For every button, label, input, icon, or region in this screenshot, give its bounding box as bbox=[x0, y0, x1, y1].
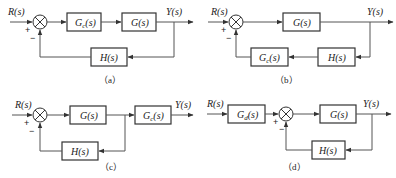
input-label: R(s) bbox=[206, 98, 224, 110]
output-label: Y(s) bbox=[367, 6, 384, 18]
input-label: R(s) bbox=[14, 99, 32, 111]
caption: （c） bbox=[100, 162, 122, 172]
block-h: H(s) bbox=[318, 48, 355, 66]
minus-sign: − bbox=[30, 33, 35, 43]
minus-sign: − bbox=[279, 124, 284, 134]
output-label: Y(s) bbox=[363, 98, 380, 110]
block-g: G(s) bbox=[320, 105, 356, 123]
svg-text:G(s): G(s) bbox=[330, 109, 348, 121]
block-h: H(s) bbox=[62, 142, 98, 160]
diagram-a: R(s) + − Gc(s) G(s) Y(s) H(s) （a） bbox=[7, 6, 193, 85]
minus-sign: − bbox=[29, 126, 34, 136]
block-g: G(s) bbox=[283, 13, 320, 31]
caption: （d） bbox=[283, 162, 306, 172]
plus-sign: + bbox=[273, 117, 278, 127]
summing-junction bbox=[33, 15, 47, 29]
output-label: Y(s) bbox=[166, 6, 183, 18]
input-label: R(s) bbox=[210, 6, 228, 18]
block-h: H(s) bbox=[312, 141, 345, 159]
svg-text:H(s): H(s) bbox=[70, 146, 89, 158]
svg-text:H(s): H(s) bbox=[99, 52, 118, 64]
block-h: H(s) bbox=[91, 48, 127, 66]
summing-junction bbox=[33, 108, 47, 122]
diagram-d: R(s) Gd(s) + − G(s) Y(s) H(s) （d） bbox=[206, 98, 391, 172]
minus-sign: − bbox=[226, 33, 231, 43]
block-g: G(s) bbox=[70, 106, 106, 124]
block-gd: Gd(s) bbox=[228, 105, 265, 123]
block-gc: Gc(s) bbox=[251, 48, 288, 66]
block-g: G(s) bbox=[122, 13, 156, 31]
svg-text:G(s): G(s) bbox=[80, 110, 98, 122]
block-gc: Gc(s) bbox=[135, 106, 171, 124]
caption: （b） bbox=[275, 75, 298, 85]
input-label: R(s) bbox=[7, 6, 25, 18]
diagram-c: R(s) + − G(s) Gc(s) Y(s) H(s) （c） bbox=[12, 99, 193, 172]
summing-junction bbox=[279, 107, 293, 121]
caption: （a） bbox=[99, 75, 121, 85]
svg-text:G(s): G(s) bbox=[293, 17, 311, 29]
svg-text:H(s): H(s) bbox=[327, 52, 346, 64]
summing-junction bbox=[229, 15, 243, 29]
svg-text:G(s): G(s) bbox=[131, 17, 149, 29]
output-label: Y(s) bbox=[175, 99, 192, 111]
svg-text:H(s): H(s) bbox=[318, 145, 337, 157]
block-gc: Gc(s) bbox=[67, 13, 101, 31]
diagram-b: R(s) + − G(s) Y(s) H(s) Gc(s) （b） bbox=[208, 6, 393, 85]
